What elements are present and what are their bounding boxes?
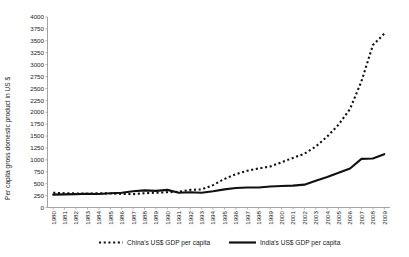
x-tick-label: 1994 — [209, 210, 216, 224]
x-tick-label: 2009 — [381, 210, 388, 224]
x-tick-label: 1996 — [232, 210, 239, 224]
x-tick-label: 2006 — [346, 210, 353, 224]
x-tick-label: 1987 — [130, 210, 137, 224]
x-tick-label: 1980 — [50, 210, 57, 224]
y-tick-label: 250 — [34, 192, 45, 199]
y-axis-tick-labels: 0250500750100012501500175020002250250027… — [30, 13, 44, 211]
y-tick-label: 0 — [41, 204, 45, 211]
series-line-india — [53, 154, 384, 194]
y-tick-label: 500 — [34, 180, 45, 187]
y-tick-label: 1250 — [30, 144, 44, 151]
y-tick-label: 2750 — [30, 73, 44, 80]
gdp-per-capita-line-chart: Per capita gross domestic product in US … — [0, 0, 409, 257]
x-tick-label: 1982 — [72, 210, 79, 224]
x-tick-label: 1997 — [244, 210, 251, 224]
x-tick-label: 1992 — [187, 210, 194, 224]
x-tick-label: 1988 — [141, 210, 148, 224]
x-tick-label: 1986 — [118, 210, 125, 224]
y-tick-label: 2250 — [30, 97, 44, 104]
y-tick-label: 3000 — [30, 61, 44, 68]
y-tick-label: 750 — [34, 168, 45, 175]
x-axis-tick-labels: 1980198119821983198419851986198719881989… — [50, 210, 388, 224]
x-tick-label: 1999 — [267, 210, 274, 224]
x-tick-label: 1991 — [175, 210, 182, 224]
y-axis-title-text: Per capita gross domestic product in US … — [4, 77, 12, 200]
series-line-china — [53, 34, 384, 194]
x-tick-label: 2000 — [278, 210, 285, 224]
x-tick-label: 2008 — [369, 210, 376, 224]
x-tick-label: 1993 — [198, 210, 205, 224]
y-tick-label: 4000 — [30, 13, 44, 20]
y-tick-label: 1750 — [30, 120, 44, 127]
x-tick-label: 1995 — [221, 210, 228, 224]
chart-canvas: Per capita gross domestic product in US … — [0, 0, 409, 257]
x-tick-label: 2003 — [312, 210, 319, 224]
x-tick-label: 2004 — [324, 210, 331, 224]
x-tick-label: 1989 — [152, 210, 159, 224]
y-tick-label: 1500 — [30, 132, 44, 139]
y-tick-label: 2500 — [30, 85, 44, 92]
y-tick-label: 3500 — [30, 37, 44, 44]
legend-label-india: India's US$ GDP per capita — [260, 239, 341, 247]
x-tick-label: 1984 — [95, 210, 102, 224]
y-tick-label: 3750 — [30, 25, 44, 32]
legend-label-china: China's US$ GDP per capita — [127, 239, 211, 247]
x-tick-label: 1985 — [107, 210, 114, 224]
y-tick-label: 2000 — [30, 108, 44, 115]
x-tick-label: 2007 — [358, 210, 365, 224]
x-tick-label: 1990 — [164, 210, 171, 224]
x-tick-label: 2001 — [289, 210, 296, 224]
x-tick-label: 1998 — [255, 210, 262, 224]
y-tick-label: 3250 — [30, 49, 44, 56]
x-tick-label: 1983 — [84, 210, 91, 224]
x-tick-label: 2005 — [335, 210, 342, 224]
chart-legend: China's US$ GDP per capita India's US$ G… — [99, 239, 341, 247]
x-tick-label: 2002 — [301, 210, 308, 224]
x-tick-label: 1981 — [61, 210, 68, 224]
y-axis-title: Per capita gross domestic product in US … — [4, 77, 12, 200]
y-tick-label: 1000 — [30, 156, 44, 163]
